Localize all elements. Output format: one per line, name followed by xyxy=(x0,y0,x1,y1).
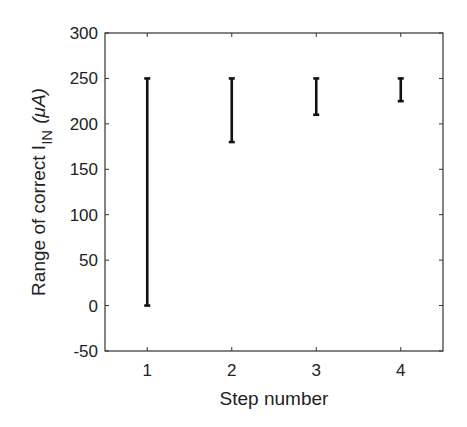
plot-area-frame xyxy=(105,33,443,351)
y-tick-label: 150 xyxy=(70,160,98,179)
range-bar-step-1 xyxy=(144,78,150,305)
y-axis-label-subscript: IN xyxy=(38,130,55,145)
x-axis-ticks: 1234 xyxy=(143,33,406,380)
x-tick-label: 4 xyxy=(396,361,405,380)
y-tick-label: 50 xyxy=(79,251,98,270)
y-tick-label: 200 xyxy=(70,115,98,134)
range-bar-step-3 xyxy=(313,78,319,114)
range-bar-step-4 xyxy=(398,78,404,101)
y-tick-label: 100 xyxy=(70,206,98,225)
y-axis-ticks: -50050100150200250300 xyxy=(70,24,443,361)
x-tick-label: 1 xyxy=(143,361,152,380)
y-axis-label-main: Range of correct I xyxy=(28,145,49,296)
x-tick-label: 2 xyxy=(227,361,236,380)
x-axis-label: Step number xyxy=(220,388,329,409)
errorbar-chart: -50050100150200250300 1234 Step number R… xyxy=(0,0,467,427)
y-tick-label: 0 xyxy=(89,297,98,316)
y-tick-label: 300 xyxy=(70,24,98,43)
range-bar-step-2 xyxy=(229,78,235,142)
y-axis-label: Range of correct IIN(μA) xyxy=(28,88,55,296)
y-axis-label-unit: (μA) xyxy=(28,88,49,124)
range-bars xyxy=(144,78,404,305)
y-tick-label: 250 xyxy=(70,69,98,88)
y-tick-label: -50 xyxy=(73,342,98,361)
x-tick-label: 3 xyxy=(312,361,321,380)
